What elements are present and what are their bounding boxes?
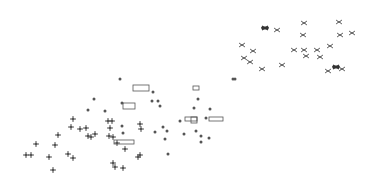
dot-icon: [200, 141, 203, 144]
bowtie-icon: [259, 67, 265, 71]
dot-icon: [193, 107, 196, 110]
bowtie-icon: [291, 48, 297, 52]
bowtie-icon: [325, 69, 331, 73]
dot-icon: [121, 125, 124, 128]
cross-icon: [52, 142, 58, 148]
dot-icon: [197, 98, 200, 101]
cross-icon: [70, 116, 76, 122]
cross-icon: [92, 131, 98, 137]
cross-icon: [120, 165, 126, 171]
dot-icon: [87, 109, 90, 112]
cross-icon: [137, 121, 143, 127]
cross-icon: [70, 155, 76, 161]
cross-icon: [106, 133, 112, 139]
dot-icon: [157, 100, 160, 103]
bowtie-icon: [241, 56, 247, 60]
bowtie-icon: [274, 28, 280, 32]
dot-icon: [152, 91, 155, 94]
cross-icon: [50, 167, 56, 173]
bowtie-icon: [279, 63, 285, 67]
cross-icon: [85, 133, 91, 139]
bowtie-icon: [247, 60, 253, 64]
bowtie-icon: [317, 55, 323, 59]
cross-icon: [77, 126, 83, 132]
bowtie-icon: [239, 43, 245, 47]
rect-icon: [209, 117, 223, 121]
rect-icon: [123, 103, 135, 109]
cross-icon: [23, 152, 29, 158]
cross-icon: [33, 141, 39, 147]
bowtie-icon: [332, 65, 340, 69]
dot-icon: [209, 108, 212, 111]
bowtie-icon: [303, 54, 309, 58]
dot-icon: [162, 126, 165, 129]
bowtie-icon: [250, 49, 256, 53]
glyph-scatter-canvas: [0, 0, 379, 187]
cross-icon: [88, 134, 94, 140]
rect-icon: [193, 86, 199, 90]
dot-icon: [154, 131, 157, 134]
cross-icon: [68, 124, 74, 130]
dot-icon: [122, 132, 125, 135]
bowtie-icon: [336, 20, 342, 24]
dot-icon: [93, 98, 96, 101]
cross-icon: [122, 146, 128, 152]
dot-icon: [151, 100, 154, 103]
bowtie-icon: [301, 48, 307, 52]
dot-icon: [159, 105, 162, 108]
dot-icon: [119, 78, 122, 81]
bowtie-icon: [339, 67, 345, 71]
bowtie-icon: [300, 33, 306, 37]
cross-icon: [46, 154, 52, 160]
cross-icon: [114, 140, 120, 146]
dot-icon: [200, 135, 203, 138]
cross-icon: [65, 151, 71, 157]
dot-icon: [234, 78, 237, 81]
rect-icon: [133, 85, 149, 91]
dot-icon: [166, 130, 169, 133]
dot-icon: [104, 110, 107, 113]
dot-icon: [195, 130, 198, 133]
cross-icon: [55, 132, 61, 138]
bowtie-icon: [261, 26, 269, 30]
dot-icon: [167, 153, 170, 156]
bowtie-icon: [327, 44, 333, 48]
bowtie-icon: [337, 33, 343, 37]
cross-icon: [107, 125, 113, 131]
bowtie-icon: [314, 48, 320, 52]
rect-icon: [191, 117, 197, 123]
cross-icon: [83, 125, 89, 131]
cross-markers: [23, 116, 144, 173]
rect-markers: [114, 85, 223, 144]
dot-icon: [164, 138, 167, 141]
bowtie-markers: [239, 20, 355, 73]
dot-icon: [179, 120, 182, 123]
dot-markers: [87, 78, 237, 156]
bowtie-icon: [301, 21, 307, 25]
cross-icon: [109, 118, 115, 124]
dot-icon: [205, 117, 208, 120]
bowtie-icon: [349, 31, 355, 35]
cross-icon: [138, 126, 144, 132]
cross-icon: [110, 134, 116, 140]
dot-icon: [183, 133, 186, 136]
dot-icon: [208, 137, 211, 140]
